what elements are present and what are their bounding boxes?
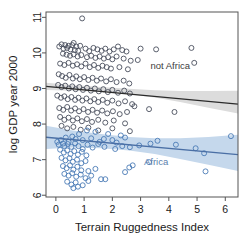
data-point [59,123,64,128]
data-point [86,169,91,174]
data-point [105,100,110,105]
data-point [90,107,95,112]
data-point [117,65,122,70]
y-tick-label: 7 [31,157,43,163]
data-point [127,129,132,134]
data-point [86,178,91,183]
data-point [121,78,126,83]
data-point [103,120,108,125]
data-point [117,112,122,117]
data-point [128,58,133,63]
data-point [147,107,152,112]
data-point [189,45,194,50]
data-points-not-africa [55,16,197,134]
data-point [81,107,86,112]
data-point [123,121,128,126]
data-point [95,110,100,115]
data-point [93,166,98,171]
scatter-plot-figure: 0123456 67891011 not AfricaAfrica Terrai… [0,0,250,245]
data-point [80,16,85,21]
x-tick-label: 4 [166,203,172,215]
data-point [125,67,130,72]
series-annotation-africa: Africa [144,156,169,167]
data-point [116,101,121,106]
data-point [84,153,89,158]
data-point [114,54,119,59]
x-tick-label: 5 [194,203,200,215]
data-point [123,170,128,175]
data-point [71,124,76,129]
data-point [68,163,73,168]
data-point [99,76,104,81]
data-point [83,61,88,66]
x-axis-label: Terrain Ruggedness Index [75,221,209,233]
data-point [89,173,94,178]
data-point [125,109,130,114]
data-point [83,159,88,164]
data-point [75,116,80,121]
y-tick-label: 10 [31,47,43,59]
data-point [203,169,208,174]
data-point [104,79,109,84]
data-point [123,99,128,104]
x-tick-label: 3 [138,203,144,215]
data-point [192,60,197,65]
data-point [83,176,88,181]
data-point [100,108,105,113]
y-tick-label: 11 [31,12,43,23]
data-point [90,119,95,124]
data-point [96,117,101,122]
data-point [79,149,84,154]
data-point [84,117,89,122]
chart-canvas: 0123456 67891011 not AfricaAfrica Terrai… [0,0,250,245]
y-axis-ticks: 67891011 [31,12,46,198]
x-tick-label: 1 [81,203,87,215]
data-point [79,119,84,124]
data-point [127,81,132,86]
x-tick-label: 2 [109,203,115,215]
data-point [108,77,113,82]
y-axis-label: log GDP year 2000 [7,56,19,154]
data-point [114,80,119,85]
data-point [135,58,140,63]
data-point [116,44,121,49]
data-point [154,47,159,52]
x-tick-label: 0 [53,203,59,215]
series-annotation-not-africa: not Africa [150,60,190,71]
data-point [75,157,80,162]
data-point [80,183,85,188]
data-point [121,56,126,61]
data-point [172,109,177,114]
y-tick-label: 6 [31,192,43,198]
data-point [105,111,110,116]
data-point [110,109,115,114]
y-tick-label: 8 [31,121,43,127]
y-tick-label: 9 [31,85,43,91]
x-axis-ticks: 0123456 [53,197,228,215]
x-tick-label: 6 [222,203,228,215]
data-point [111,118,116,123]
data-point [100,97,105,102]
data-point [75,184,80,189]
data-point [110,126,115,131]
data-point [138,46,143,51]
data-point [110,98,115,103]
